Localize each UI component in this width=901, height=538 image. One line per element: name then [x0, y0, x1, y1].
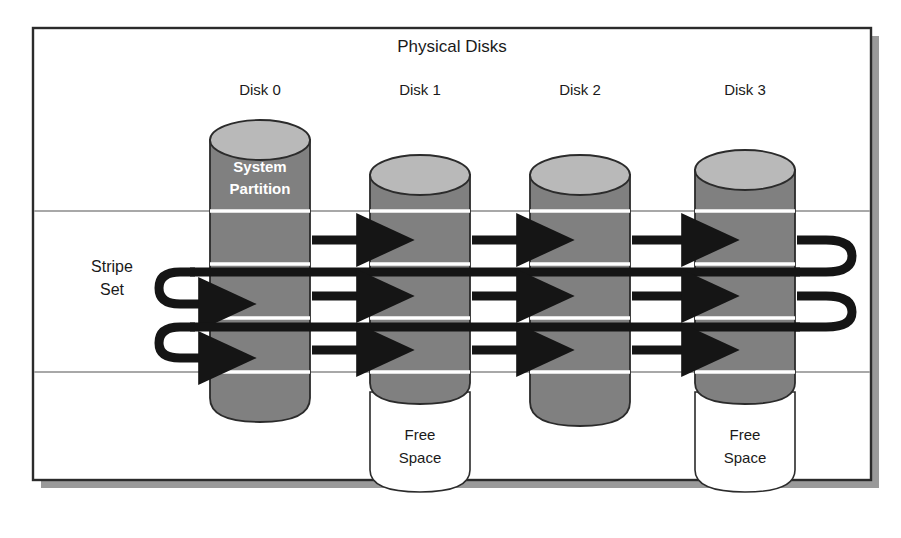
- disk-top-ellipse-2: [530, 155, 630, 195]
- stripe-set-label-line1: Stripe: [91, 258, 133, 275]
- free-space-label-1-line1: Free: [405, 426, 436, 443]
- disk-cylinder-1[interactable]: [370, 155, 470, 404]
- system-partition-label-line1: System: [233, 158, 286, 175]
- free-space-label-1-line2: Space: [399, 449, 442, 466]
- system-partition-label-line2: Partition: [230, 180, 291, 197]
- stripe-set-label-line2: Set: [100, 281, 125, 298]
- free-space-label-3-line2: Space: [724, 449, 767, 466]
- disk-top-ellipse-1: [370, 155, 470, 195]
- disk-label-0: Disk 0: [239, 81, 281, 98]
- disk-top-ellipse-3: [695, 150, 795, 190]
- disk-cylinder-3[interactable]: [695, 150, 795, 404]
- free-space-label-3-line1: Free: [730, 426, 761, 443]
- disk-top-ellipse-0: [210, 120, 310, 160]
- disk-label-3: Disk 3: [724, 81, 766, 98]
- free-space-disk-3: Free Space: [695, 392, 795, 492]
- stripe-set-diagram: Physical Disks Disk 0 Disk 1 Disk 2 Disk…: [0, 0, 901, 538]
- diagram-canvas: Physical Disks Disk 0 Disk 1 Disk 2 Disk…: [0, 0, 901, 538]
- free-space-disk-1: Free Space: [370, 392, 470, 492]
- disk-label-1: Disk 1: [399, 81, 441, 98]
- figure-title: Physical Disks: [397, 37, 507, 56]
- disk-label-2: Disk 2: [559, 81, 601, 98]
- disk-cylinder-2[interactable]: [530, 155, 630, 426]
